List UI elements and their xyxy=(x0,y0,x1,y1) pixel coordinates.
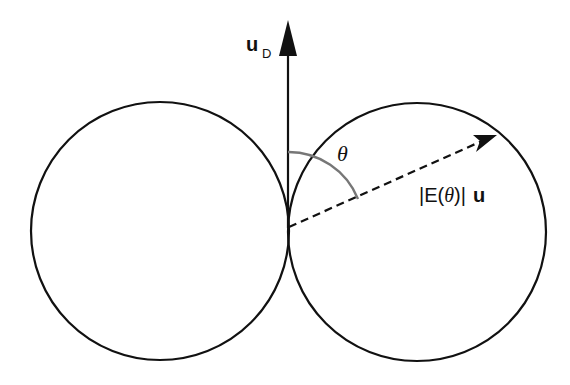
right-lobe-circle xyxy=(288,103,546,361)
dipole-vector-subscript: D xyxy=(262,46,271,61)
dipole-vector-label: u xyxy=(246,33,258,55)
field-arrowhead-icon xyxy=(473,135,497,152)
dipole-arrowhead-icon xyxy=(279,20,297,56)
field-theta: θ xyxy=(444,184,454,206)
field-unit-vector: u xyxy=(473,184,485,206)
angle-theta-label: θ xyxy=(337,141,348,166)
field-magnitude-label: |E(θ)|u xyxy=(419,184,485,206)
left-lobe-circle xyxy=(31,102,289,360)
field-suffix: )| xyxy=(454,184,466,206)
field-prefix: |E( xyxy=(419,184,445,206)
dipole-diagram: u D θ |E(θ)|u xyxy=(0,0,570,385)
